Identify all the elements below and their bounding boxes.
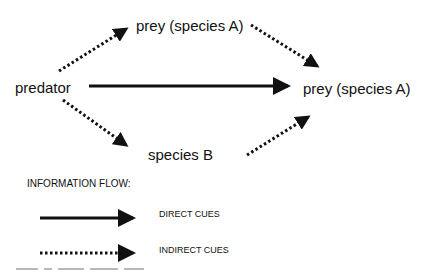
diagram-canvas: predator prey (species A) prey (species … [0,0,431,273]
node-prey-top: prey (species A) [136,18,244,33]
indirect-arrow-predator-to-prey-top [59,29,126,71]
legend-label-direct: DIRECT CUES [159,210,220,219]
node-prey-right: prey (species A) [303,81,411,96]
legend-label-indirect: INDIRECT CUES [159,246,229,255]
legend-title: INFORMATION FLOW: [27,179,131,189]
arrows-layer [0,0,431,273]
indirect-arrow-species-b-to-prey-right [247,117,308,155]
indirect-arrow-predator-to-species-b [63,100,126,145]
node-species-b: species B [148,147,213,162]
indirect-arrow-prey-top-to-prey-right [251,25,317,66]
node-predator: predator [15,80,71,95]
cropped-caption [16,268,166,273]
